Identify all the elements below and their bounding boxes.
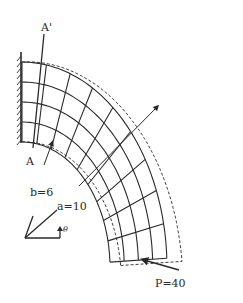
outer-radius-label: a=10 [57, 201, 87, 212]
load-arrow [144, 260, 179, 270]
fixed-wall [17, 52, 21, 145]
section-label-a: A [26, 156, 34, 167]
load-label: P=40 [155, 278, 186, 289]
inner-radius-label: b=6 [30, 187, 53, 198]
undeformed-mesh [22, 62, 167, 262]
section-label-a-prime: A' [41, 22, 52, 33]
curved-beam-diagram [0, 0, 243, 303]
coordinate-axes [25, 210, 63, 238]
theta-label: θ [63, 226, 68, 234]
deformed-outline [22, 62, 182, 266]
